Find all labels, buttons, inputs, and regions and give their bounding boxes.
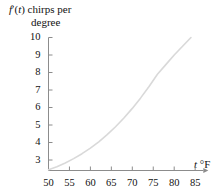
x-tick-label: 70 bbox=[123, 177, 141, 188]
y-tick-label: 10 bbox=[25, 31, 41, 42]
x-tick-label: 80 bbox=[165, 177, 183, 188]
x-tick-label: 60 bbox=[81, 177, 99, 188]
x-tick-label: 75 bbox=[144, 177, 162, 188]
y-tick-label: 3 bbox=[25, 154, 41, 165]
y-tick-label: 4 bbox=[25, 136, 41, 147]
x-tick-label: 65 bbox=[102, 177, 120, 188]
y-tick-label: 6 bbox=[25, 101, 41, 112]
y-axis bbox=[49, 38, 53, 171]
x-tick-label: 85 bbox=[186, 177, 204, 188]
data-curve bbox=[49, 38, 191, 170]
chart-figure: f′(t) chirps per degree t °F 345678910 5… bbox=[0, 0, 219, 192]
x-axis bbox=[49, 167, 209, 174]
x-tick-label: 50 bbox=[40, 177, 58, 188]
y-tick-label: 9 bbox=[25, 49, 41, 60]
y-tick-label: 7 bbox=[25, 84, 41, 95]
y-tick-label: 8 bbox=[25, 66, 41, 77]
y-tick-label: 5 bbox=[25, 119, 41, 130]
x-tick-label: 55 bbox=[60, 177, 78, 188]
